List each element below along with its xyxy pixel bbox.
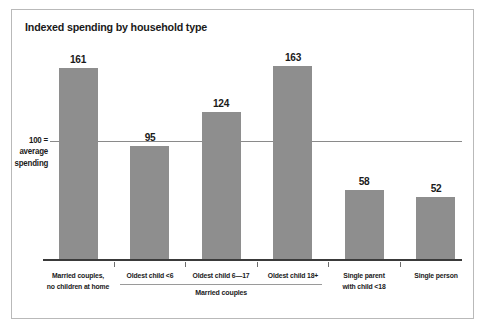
category-label-1: Oldest child <6 [115, 271, 183, 282]
x-axis-line [43, 259, 462, 261]
category-label-2: Oldest child 6—17 [187, 271, 255, 282]
reference-line-label-line-0: 100 = [15, 135, 48, 147]
axis-tick-2 [257, 262, 258, 267]
bar-0[interactable] [59, 68, 98, 259]
bar-2[interactable] [202, 112, 241, 259]
reference-line-label-line-1: average [15, 146, 48, 158]
axis-tick-4 [400, 262, 401, 267]
category-label-3: Oldest child 18+ [258, 271, 326, 282]
reference-line-label-line-2: spending [15, 158, 48, 170]
category-label-0: Married couples,no children at home [44, 271, 112, 292]
category-label-1-line-0: Oldest child <6 [115, 271, 183, 282]
category-label-5-line-0: Single person [401, 271, 469, 282]
category-label-3-line-0: Oldest child 18+ [258, 271, 326, 282]
bar-5[interactable] [416, 197, 455, 259]
category-label-4-line-0: Single parent [330, 271, 398, 282]
reference-line-100 [50, 141, 462, 142]
bar-value-label-5: 52 [408, 182, 463, 194]
bar-value-label-1: 95 [122, 131, 177, 143]
category-label-5: Single person [401, 271, 469, 282]
bar-value-label-3: 163 [265, 51, 320, 63]
group-bracket-label: Married couples [112, 288, 330, 297]
category-label-4: Single parentwith child <18 [330, 271, 398, 292]
bar-value-label-0: 161 [50, 53, 105, 65]
category-label-0-line-1: no children at home [44, 282, 112, 293]
chart-frame: Indexed spending by household type 100 =… [11, 9, 474, 319]
axis-tick-3 [328, 262, 329, 267]
category-label-4-line-1: with child <18 [330, 282, 398, 293]
group-bracket-line [120, 284, 323, 285]
plot-area: 100 =averagespending161Married couples,n… [12, 10, 474, 319]
axis-tick-0 [114, 262, 115, 267]
bar-4[interactable] [345, 190, 384, 259]
category-label-0-line-0: Married couples, [44, 271, 112, 282]
bar-value-label-4: 58 [336, 175, 391, 187]
bar-value-label-2: 124 [193, 97, 248, 109]
bar-3[interactable] [273, 66, 312, 259]
bar-1[interactable] [130, 146, 169, 259]
category-label-2-line-0: Oldest child 6—17 [187, 271, 255, 282]
axis-tick-1 [185, 262, 186, 267]
reference-line-label: 100 =averagespending [15, 135, 48, 170]
